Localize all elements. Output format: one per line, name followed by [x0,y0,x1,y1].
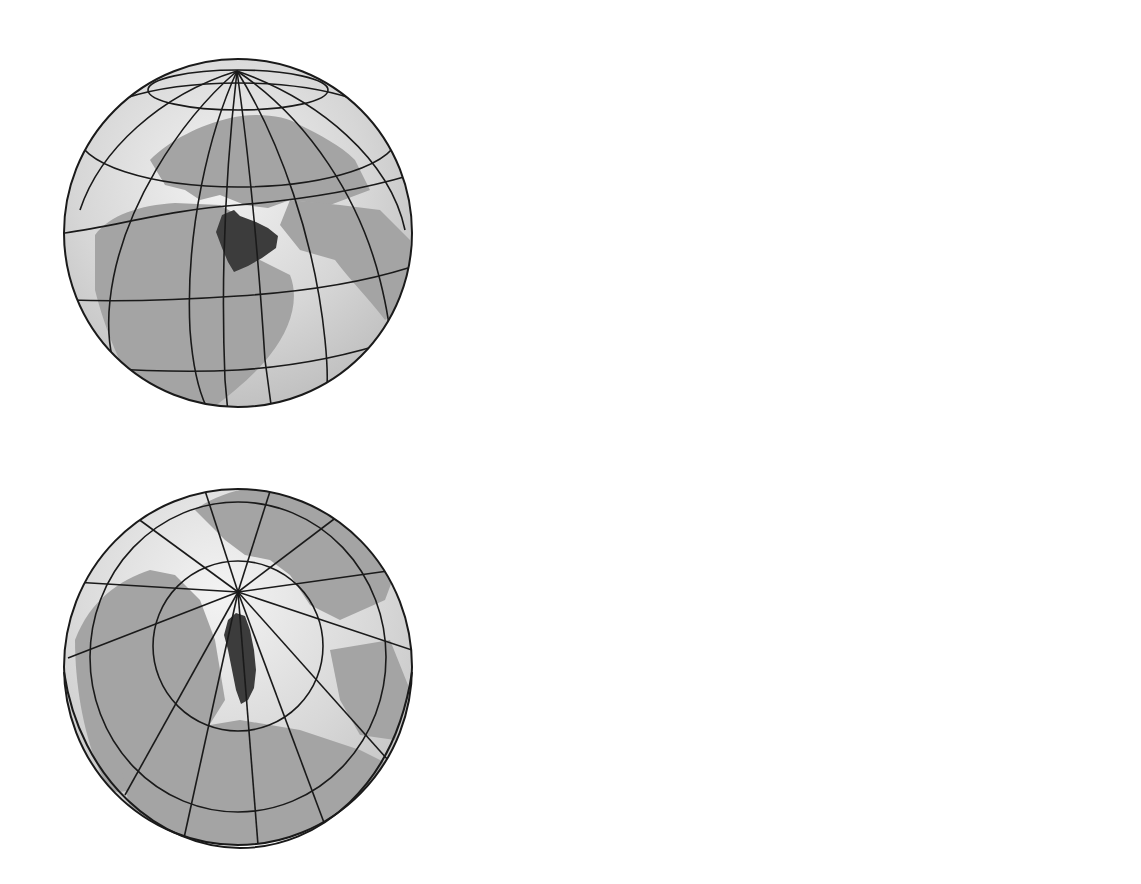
globe-centered-on-arabia [64,59,412,413]
globe-north-polar-view [64,463,412,848]
map-projection-figure: a [0,0,1141,884]
